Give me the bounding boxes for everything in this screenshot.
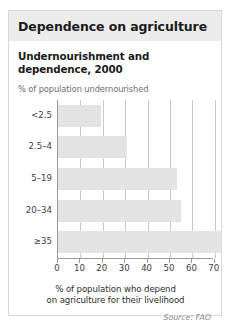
x-axis-tick-labels: 010203040506070	[57, 263, 213, 275]
bar	[58, 105, 101, 127]
category-label: 2.5–4	[29, 141, 52, 151]
chart-title: Undernourishment and dependence, 2000	[18, 50, 213, 76]
category-label: 20–34	[26, 205, 52, 215]
bars-region	[57, 100, 213, 258]
x-axis-label-line-2: on agriculture for their livelihood	[18, 295, 213, 306]
x-tick-label: 30	[119, 263, 130, 273]
x-tick-label: 20	[96, 263, 107, 273]
x-tick-label: 40	[141, 263, 152, 273]
card-header: Dependence on agriculture	[9, 11, 221, 41]
category-label: <2.5	[31, 110, 52, 120]
x-axis-label-line-1: % of population who depend	[18, 284, 213, 295]
source-note: Source: FAO	[18, 313, 213, 322]
x-tick-label: 70	[208, 263, 219, 273]
plot-area: <2.52.5–45–1920–34≥35 010203040506070	[18, 100, 213, 258]
category-labels: <2.52.5–45–1920–34≥35	[18, 100, 56, 258]
chart-card: Dependence on agriculture Undernourishme…	[8, 10, 222, 316]
bar	[58, 200, 181, 222]
bar	[58, 231, 222, 253]
x-tick-label: 0	[54, 263, 59, 273]
card-body: Undernourishment and dependence, 2000 % …	[9, 41, 221, 322]
category-label: ≥35	[34, 236, 52, 246]
x-tick-label: 50	[164, 263, 175, 273]
y-axis-label: % of population undernourished	[18, 84, 213, 94]
category-label: 5–19	[31, 173, 52, 183]
bar	[58, 168, 177, 190]
x-axis-label: % of population who depend on agricultur…	[18, 284, 213, 306]
bar	[58, 136, 127, 158]
page-title: Dependence on agriculture	[18, 19, 207, 34]
x-tick-label: 10	[74, 263, 85, 273]
x-tick-label: 60	[186, 263, 197, 273]
